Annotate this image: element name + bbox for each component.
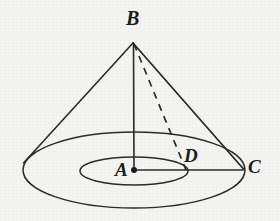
center-point-a	[131, 167, 137, 173]
vertex-label-c: C	[248, 157, 261, 176]
dashed-slant-bd	[134, 44, 186, 170]
vertex-label-d: D	[184, 146, 198, 165]
cone-axis-line	[134, 43, 135, 170]
cone-diagram-svg	[0, 0, 280, 221]
geometry-figure: B A D C	[0, 0, 280, 221]
vertex-label-a: A	[115, 160, 128, 179]
left-slant-line	[24, 43, 134, 163]
vertex-label-b: B	[126, 8, 139, 28]
